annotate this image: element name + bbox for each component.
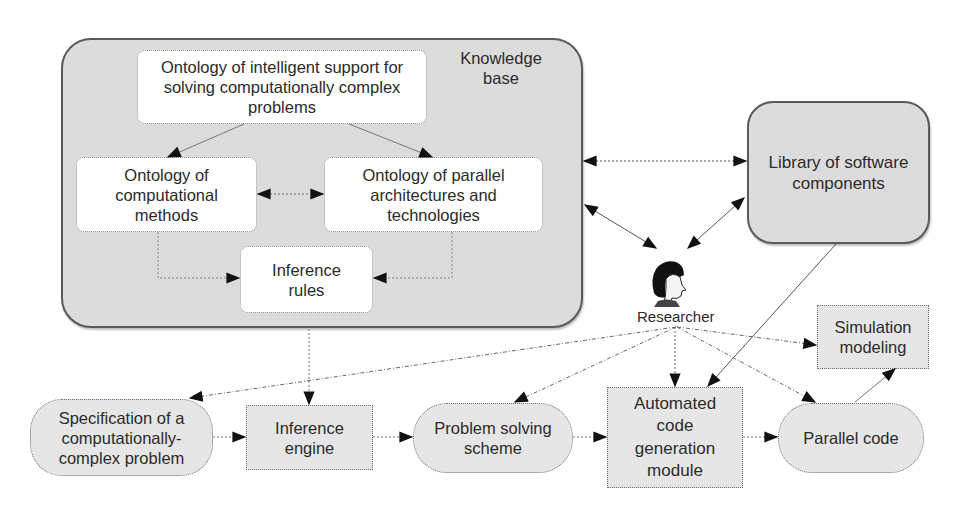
edge-library-researcher (688, 198, 744, 248)
edge-support-to-methods (168, 124, 244, 157)
connectors-layer (0, 0, 961, 515)
edge-researcher-to-simulation (677, 327, 816, 345)
edge-parallel-code-to-simulation (855, 369, 895, 402)
edge-kb-researcher (585, 205, 656, 248)
edge-support-to-architectures (349, 124, 432, 157)
edge-researcher-to-specification (190, 327, 676, 398)
edge-architectures-to-rules (374, 232, 452, 278)
edge-researcher-to-problem-solving (515, 327, 676, 402)
edge-library-to-codegen (708, 244, 836, 386)
edge-methods-to-rules (158, 232, 239, 278)
diagram-canvas: Knowledge base Ontology of intelligent s… (0, 0, 961, 515)
edge-researcher-to-parallel-code (677, 327, 815, 402)
